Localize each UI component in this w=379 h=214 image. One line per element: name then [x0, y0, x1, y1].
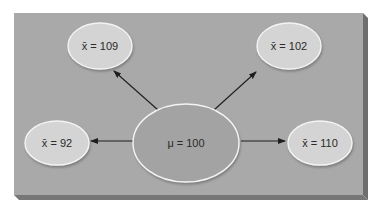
population-mean-label: μ = 100 — [167, 137, 204, 149]
sampling-diagram: x̄ = 109 x̄ = 102 x̄ = 92 x̄ = 110 μ = 1… — [0, 0, 379, 214]
sample-label-top-left: x̄ = 109 — [82, 40, 118, 52]
sample-label-left: x̄ = 92 — [42, 137, 72, 149]
sample-label-right: x̄ = 110 — [302, 137, 338, 149]
diagram-canvas — [0, 0, 379, 214]
sample-label-top-right: x̄ = 102 — [271, 40, 307, 52]
